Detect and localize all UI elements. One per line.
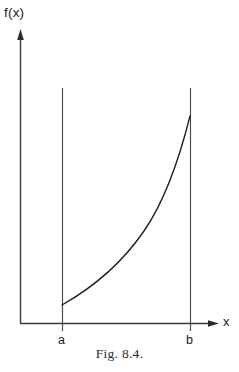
- y-axis-label: f(x): [4, 6, 24, 20]
- tick-label-a: a: [58, 334, 65, 347]
- y-axis-arrow-icon: [17, 29, 24, 40]
- figure-caption: Fig. 8.4.: [0, 347, 239, 361]
- x-axis-label: x: [223, 315, 230, 328]
- tick-label-b: b: [186, 334, 193, 347]
- figure-canvas: [0, 0, 239, 372]
- figure-container: f(x) x a b Fig. 8.4.: [0, 0, 239, 372]
- function-curve: [62, 116, 190, 305]
- x-axis-arrow-icon: [208, 320, 219, 327]
